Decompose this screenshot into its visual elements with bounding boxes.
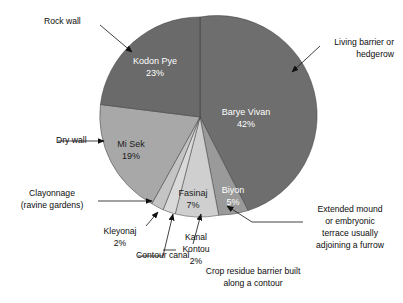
annotation-kanal-line3: 2% (190, 256, 203, 266)
slice-label-biyon-name: Biyon (222, 185, 245, 195)
annotation-clayonnage-line2: (ravine gardens) (21, 200, 84, 210)
chart-canvas: Kodon Pye 23% Barye Vivan 42% Mi Sek 19%… (0, 0, 403, 303)
annotation-extended-line3: terrace usually (322, 228, 379, 238)
pie-chart-figure: Kodon Pye 23% Barye Vivan 42% Mi Sek 19%… (0, 0, 403, 303)
slice-label-kodon-pye-name: Kodon Pye (133, 56, 177, 66)
leader-rock-wall (100, 25, 132, 52)
annotation-kanal-line2: Kontou (182, 244, 209, 254)
slice-label-mi-sek-name: Mi Sek (117, 139, 145, 149)
slice-label-kodon-pye-pct: 23% (146, 68, 164, 78)
annotation-extended-line1: Extended mound (318, 204, 383, 214)
slice-label-fasinaj-name: Fasinaj (178, 188, 207, 198)
pie-slice-kodon-pye[interactable] (100, 17, 200, 117)
annotation-living-barrier-line2: hedgerow (356, 49, 395, 59)
slice-label-biyon-pct: 5% (226, 197, 239, 207)
annotation-extended-line4: adjoining a furrow (316, 240, 385, 250)
annotation-kleyonaj-line1: Kleyonaj (104, 226, 137, 236)
slice-label-barye-vivan-pct: 42% (237, 119, 255, 129)
annotation-kanal-line1: Kanal (185, 232, 207, 242)
annotation-living-barrier-line1: Living barrier or (334, 37, 394, 47)
slice-label-mi-sek-pct: 19% (122, 151, 140, 161)
annotation-clayonnage-line1: Clayonnage (29, 188, 75, 198)
annotation-extended-line2: or embryonic (325, 216, 375, 226)
annotation-crop-residue-line2: along a contour (223, 278, 282, 288)
annotation-rock-wall: Rock wall (44, 16, 81, 26)
annotation-kleyonaj-line2: 2% (114, 238, 127, 248)
pie-slices (100, 16, 317, 218)
annotation-crop-residue-line1: Crop residue barrier built (206, 266, 301, 276)
slice-label-barye-vivan-name: Barye Vivan (222, 107, 270, 117)
slice-label-fasinaj-pct: 7% (186, 200, 199, 210)
leader-kleyonaj (146, 212, 158, 226)
annotation-dry-wall: Dry wall (56, 135, 87, 145)
